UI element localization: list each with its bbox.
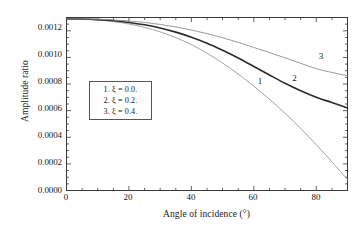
figure-container: Amplitude ratio Angle of incidence (°) 0… [0, 0, 363, 229]
curve-3 [67, 19, 348, 76]
y-tick-label: 0.0006 [16, 104, 62, 113]
legend-entry: 2. ξ = 0.2. [104, 96, 138, 106]
legend-entry: 3. ξ = 0.4. [104, 107, 138, 117]
curve-annotation-3: 3 [314, 52, 328, 61]
y-tick-label: 0.0010 [16, 50, 62, 59]
y-tick-label: 0.0004 [16, 131, 62, 140]
y-tick-label: 0.0012 [16, 23, 62, 32]
legend-entry: 1. ξ = 0.0. [104, 85, 138, 95]
curve-annotation-1: 1 [253, 77, 267, 86]
x-axis-title: Angle of incidence (°) [66, 209, 347, 219]
y-tick-label: 0.0008 [16, 77, 62, 86]
x-tick-label: 20 [113, 193, 143, 202]
x-tick-label: 60 [238, 193, 268, 202]
legend-box: 1. ξ = 0.0. 2. ξ = 0.2. 3. ξ = 0.4. [89, 81, 152, 120]
y-tick-label: 0.0002 [16, 158, 62, 167]
x-tick-label: 80 [301, 193, 331, 202]
x-tick-label: 40 [176, 193, 206, 202]
curve-annotation-2: 2 [287, 74, 301, 83]
x-tick-label: 0 [51, 193, 81, 202]
